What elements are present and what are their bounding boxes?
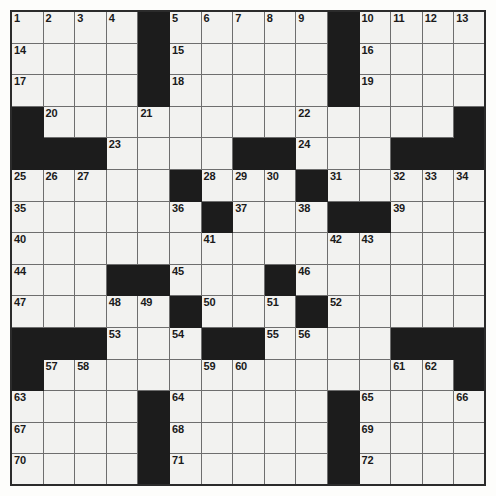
crossword-cell[interactable]: 61 <box>391 360 423 392</box>
crossword-cell[interactable] <box>170 360 202 392</box>
crossword-cell[interactable]: 62 <box>423 360 455 392</box>
crossword-cell[interactable] <box>454 423 486 455</box>
crossword-cell[interactable]: 24 <box>296 138 328 170</box>
crossword-cell[interactable]: 18 <box>170 75 202 107</box>
crossword-cell[interactable]: 51 <box>265 296 297 328</box>
crossword-cell[interactable] <box>233 454 265 486</box>
crossword-cell[interactable] <box>138 360 170 392</box>
crossword-cell[interactable] <box>44 202 76 234</box>
crossword-cell[interactable]: 43 <box>360 233 392 265</box>
crossword-cell[interactable] <box>75 44 107 76</box>
crossword-cell[interactable]: 28 <box>202 170 234 202</box>
crossword-cell[interactable] <box>44 423 76 455</box>
crossword-cell[interactable] <box>107 423 139 455</box>
crossword-cell[interactable]: 8 <box>265 12 297 44</box>
crossword-cell[interactable] <box>423 233 455 265</box>
crossword-cell[interactable]: 60 <box>233 360 265 392</box>
crossword-cell[interactable] <box>265 44 297 76</box>
crossword-cell[interactable] <box>423 296 455 328</box>
crossword-cell[interactable] <box>107 75 139 107</box>
crossword-cell[interactable] <box>296 233 328 265</box>
crossword-cell[interactable]: 44 <box>12 265 44 297</box>
crossword-cell[interactable] <box>296 391 328 423</box>
crossword-cell[interactable]: 9 <box>296 12 328 44</box>
crossword-cell[interactable] <box>454 265 486 297</box>
crossword-cell[interactable]: 4 <box>107 12 139 44</box>
crossword-cell[interactable]: 35 <box>12 202 44 234</box>
crossword-cell[interactable]: 47 <box>12 296 44 328</box>
crossword-cell[interactable] <box>265 423 297 455</box>
crossword-cell[interactable] <box>44 391 76 423</box>
crossword-cell[interactable]: 10 <box>360 12 392 44</box>
crossword-cell[interactable]: 54 <box>170 328 202 360</box>
crossword-cell[interactable] <box>265 107 297 139</box>
crossword-cell[interactable]: 11 <box>391 12 423 44</box>
crossword-cell[interactable] <box>44 265 76 297</box>
crossword-cell[interactable]: 20 <box>44 107 76 139</box>
crossword-cell[interactable]: 52 <box>328 296 360 328</box>
crossword-cell[interactable]: 30 <box>265 170 297 202</box>
crossword-cell[interactable] <box>107 202 139 234</box>
crossword-cell[interactable] <box>75 75 107 107</box>
crossword-cell[interactable]: 5 <box>170 12 202 44</box>
crossword-grid[interactable]: 1234567891011121314151617181920212223242… <box>10 10 486 486</box>
crossword-cell[interactable]: 70 <box>12 454 44 486</box>
crossword-cell[interactable]: 32 <box>391 170 423 202</box>
crossword-cell[interactable] <box>170 233 202 265</box>
crossword-cell[interactable] <box>360 296 392 328</box>
crossword-cell[interactable]: 71 <box>170 454 202 486</box>
crossword-cell[interactable] <box>454 454 486 486</box>
crossword-cell[interactable] <box>233 296 265 328</box>
crossword-cell[interactable] <box>360 360 392 392</box>
crossword-cell[interactable] <box>328 328 360 360</box>
crossword-cell[interactable]: 67 <box>12 423 44 455</box>
crossword-cell[interactable]: 31 <box>328 170 360 202</box>
crossword-cell[interactable] <box>107 44 139 76</box>
crossword-cell[interactable]: 33 <box>423 170 455 202</box>
crossword-cell[interactable]: 39 <box>391 202 423 234</box>
crossword-cell[interactable] <box>265 360 297 392</box>
crossword-cell[interactable] <box>296 423 328 455</box>
crossword-cell[interactable] <box>391 265 423 297</box>
crossword-cell[interactable] <box>107 454 139 486</box>
crossword-cell[interactable] <box>107 233 139 265</box>
crossword-cell[interactable]: 46 <box>296 265 328 297</box>
crossword-cell[interactable] <box>328 265 360 297</box>
crossword-cell[interactable]: 3 <box>75 12 107 44</box>
crossword-cell[interactable] <box>44 44 76 76</box>
crossword-cell[interactable]: 42 <box>328 233 360 265</box>
crossword-cell[interactable] <box>75 233 107 265</box>
crossword-cell[interactable] <box>44 233 76 265</box>
crossword-cell[interactable] <box>423 44 455 76</box>
crossword-cell[interactable]: 65 <box>360 391 392 423</box>
crossword-cell[interactable]: 34 <box>454 170 486 202</box>
crossword-cell[interactable] <box>44 75 76 107</box>
crossword-cell[interactable] <box>75 454 107 486</box>
crossword-cell[interactable] <box>138 202 170 234</box>
crossword-cell[interactable] <box>107 391 139 423</box>
crossword-cell[interactable]: 1 <box>12 12 44 44</box>
crossword-cell[interactable]: 26 <box>44 170 76 202</box>
crossword-cell[interactable] <box>138 233 170 265</box>
crossword-cell[interactable] <box>265 233 297 265</box>
crossword-cell[interactable] <box>138 170 170 202</box>
crossword-cell[interactable] <box>391 423 423 455</box>
crossword-cell[interactable]: 48 <box>107 296 139 328</box>
crossword-cell[interactable] <box>423 107 455 139</box>
crossword-cell[interactable] <box>360 107 392 139</box>
crossword-cell[interactable] <box>202 454 234 486</box>
crossword-cell[interactable] <box>423 391 455 423</box>
crossword-cell[interactable] <box>328 360 360 392</box>
crossword-cell[interactable] <box>454 75 486 107</box>
crossword-cell[interactable] <box>265 391 297 423</box>
crossword-cell[interactable] <box>296 360 328 392</box>
crossword-cell[interactable]: 29 <box>233 170 265 202</box>
crossword-cell[interactable] <box>296 75 328 107</box>
crossword-cell[interactable] <box>202 265 234 297</box>
crossword-cell[interactable] <box>138 138 170 170</box>
crossword-cell[interactable] <box>391 454 423 486</box>
crossword-cell[interactable] <box>202 44 234 76</box>
crossword-cell[interactable] <box>202 138 234 170</box>
crossword-cell[interactable]: 64 <box>170 391 202 423</box>
crossword-cell[interactable] <box>360 138 392 170</box>
